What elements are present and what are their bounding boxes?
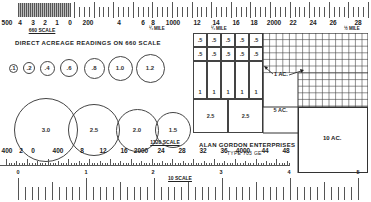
bottom-scale-tick [222,163,223,165]
bottom-scale-tick [22,163,23,165]
bottom-scale-tick [141,161,142,165]
bottom-scale-tick [165,163,166,165]
bottom-scale-label: 2 [19,148,23,155]
ten-scale-label: 0 [16,170,19,176]
ten-scale-tick [344,187,345,200]
bottom-scale-tick [201,163,202,165]
acreage-circle-small: 1.2 [136,54,165,83]
bottom-scale-tick [128,163,129,165]
top-scale-tick [339,7,340,17]
bottom-scale-tick [232,163,233,165]
bottom-scale-label: 36 [220,148,227,155]
bottom-scale-tick [152,159,153,165]
bottom-scale-tick [19,163,20,165]
acreage-circle-small: .8 [84,58,105,79]
bottom-scale-tick [217,163,218,165]
top-scale-mile-mark: ¼ MILE [149,27,165,32]
bottom-scale-tick [248,163,249,165]
top-scale-tick [241,7,242,17]
bottom-scale-tick [183,161,184,165]
bottom-scale-tick [53,163,54,165]
bottom-scale-tick [157,163,158,165]
bottom-scale-label: 16 [120,148,127,155]
top-scale-tick [250,2,251,18]
top-scale-label: 26 [329,20,336,27]
bottom-scale-tick [35,163,36,165]
top-scale-tick [285,7,286,17]
ten-scale-label: 1 [84,170,87,176]
top-scale-tick [84,7,85,17]
top-scale-label: 18 [250,20,257,27]
ten-scale-label: 3 [219,170,222,176]
top-scale-tick [255,7,256,17]
top-scale-tick [290,2,291,18]
bottom-scale-tick [107,163,108,165]
bottom-scale-tick [123,163,124,165]
top-scale-tick [260,7,261,17]
bottom-scale-tick [48,159,49,165]
top-scale-tick [172,2,173,18]
bottom-scale-tick [245,161,246,165]
top-660-scale: 50043210200468100012141618200022242628¼ … [0,0,371,36]
top-scale-tick [79,7,80,17]
bottom-scale-tick [167,163,168,165]
top-scale-tick [138,7,139,17]
top-scale-tick [118,7,119,17]
bottom-scale-tick [118,163,119,165]
direct-acreage-heading: DIRECT ACREAGE READINGS ON 660 SCALE [15,40,161,46]
bottom-scale-tick [289,163,290,165]
bottom-scale-tick [271,163,272,165]
ten-scale-tick [270,187,271,200]
one-acre-label: 1 AC. [274,71,288,77]
ten-scale-tick [38,187,39,200]
ten-scale-tick [297,187,298,200]
bottom-scale-tick [243,163,244,165]
ten-scale-tick [229,187,230,200]
ten-scale-tick [140,187,141,200]
bottom-scale-tick [196,163,197,165]
bottom-scale-name: 1320 SCALE [150,140,179,145]
bottom-scale-tick [115,163,116,165]
bottom-scale-tick [113,163,114,165]
ten-scale-tick [276,187,277,200]
top-scale-tick [123,7,124,17]
top-scale-tick [348,2,349,18]
ten-scale-tick [154,178,155,200]
bottom-scale-tick [258,163,259,165]
top-scale-tick [74,2,75,18]
bottom-scale-tick [37,161,38,165]
bottom-scale-tick [191,163,192,165]
bottom-scale-tick [287,161,288,165]
ten-scale-tick [256,182,257,200]
bottom-scale-tick [6,159,7,165]
top-scale-tick [299,7,300,17]
top-scale-tick [99,7,100,17]
top-scale-label: 1000 [166,20,180,27]
top-scale-tick [324,7,325,17]
bottom-scale-label: 28 [178,148,185,155]
bottom-scale-tick [71,163,72,165]
ten-scale-tick [202,187,203,200]
bottom-scale-tick [24,163,25,165]
ten-scale-tick [249,187,250,200]
acreage-circle-small: .4 [40,61,55,76]
ten-scale-tick [188,182,189,200]
bottom-scale-label: 0 [31,148,35,155]
five-acre-cell: 5 AC. [263,73,298,133]
acreage-circle-small: 1.0 [108,56,133,81]
top-scale-label: 12 [193,20,200,27]
ten-scale-tick [113,187,114,200]
bottom-scale-label: 400 [2,148,13,155]
top-scale-tick [187,7,188,17]
ten-scale-tick [222,178,223,200]
top-scale-tick [211,2,212,18]
bottom-scale-tick [40,163,41,165]
bottom-scale-tick [126,163,127,165]
ten-scale-tick [168,187,169,200]
top-scale-tick [368,2,369,18]
top-scale-tick [167,7,168,17]
bottom-scale-tick [204,161,205,165]
bottom-scale-tick [102,163,103,165]
bottom-scale-tick [162,161,163,165]
ten-scale-tick [338,187,339,200]
